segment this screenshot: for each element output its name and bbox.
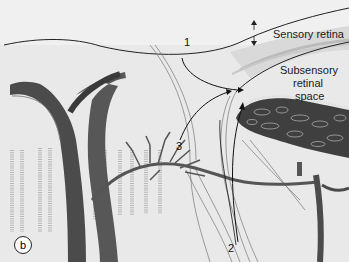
sensory-retina-label: Sensory retina [273,28,344,40]
subsensory-label-line3: space [295,90,324,102]
panel-label: b [14,236,32,254]
arrow-2-number: 2 [228,242,234,254]
subsensory-label-line2: retinal [293,77,323,89]
retina-diagram: Sensory retina Subsensory retinal space … [0,0,349,262]
arrow-3-number: 3 [176,140,182,152]
arrow-1-number: 1 [184,36,190,48]
subsensory-label-line1: Subsensory [280,64,338,76]
